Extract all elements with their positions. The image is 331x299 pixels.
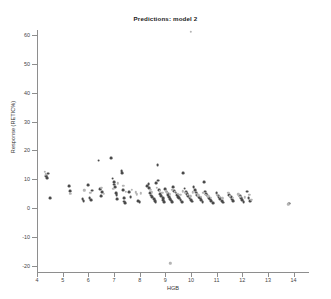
x-axis-tick-label: 9 xyxy=(155,277,175,283)
data-point xyxy=(87,184,90,187)
y-axis-tick-label: -10 xyxy=(8,234,30,240)
y-axis-tick-label: 60 xyxy=(8,32,30,38)
y-axis-tick xyxy=(32,35,37,36)
data-point xyxy=(211,201,214,204)
x-axis-tick-label: 6 xyxy=(78,277,98,283)
data-point xyxy=(97,159,100,162)
y-axis-tick xyxy=(32,150,37,151)
data-point xyxy=(140,192,142,194)
data-point xyxy=(68,185,71,188)
x-axis-tick-label: 10 xyxy=(181,277,201,283)
data-point xyxy=(89,192,91,194)
data-point xyxy=(222,201,225,204)
data-point xyxy=(129,195,132,198)
data-point xyxy=(201,201,204,204)
data-point xyxy=(116,198,119,201)
data-point xyxy=(191,200,194,203)
data-point xyxy=(182,171,185,174)
data-point xyxy=(242,201,245,204)
x-axis-tick-label: 12 xyxy=(232,277,252,283)
data-point xyxy=(121,172,124,175)
data-point xyxy=(128,191,131,194)
data-point xyxy=(89,199,92,202)
data-point xyxy=(110,157,113,160)
data-point xyxy=(202,181,205,184)
data-point xyxy=(246,190,249,193)
y-axis-spine xyxy=(37,30,38,272)
x-axis-tick-label: 14 xyxy=(284,277,304,283)
data-point xyxy=(157,179,160,182)
y-axis-tick xyxy=(32,93,37,94)
data-point xyxy=(115,194,118,197)
x-axis-label: HGB xyxy=(37,285,309,291)
data-point xyxy=(48,197,51,200)
data-point xyxy=(117,182,119,184)
data-point xyxy=(192,186,195,189)
data-point xyxy=(46,172,49,175)
data-point xyxy=(45,177,48,180)
y-axis-tick xyxy=(32,266,37,267)
data-point xyxy=(147,183,150,186)
data-point xyxy=(169,262,171,264)
y-axis-tick xyxy=(32,237,37,238)
data-point xyxy=(100,194,103,197)
scatter-points-layer xyxy=(37,26,309,272)
data-point xyxy=(83,189,85,191)
y-axis-tick xyxy=(32,122,37,123)
data-point xyxy=(123,201,126,204)
data-point xyxy=(163,201,166,204)
data-point xyxy=(122,185,124,187)
data-point xyxy=(183,187,186,190)
data-point xyxy=(69,193,71,195)
x-axis-tick-label: 8 xyxy=(130,277,150,283)
x-axis-tick-label: 11 xyxy=(207,277,227,283)
data-point xyxy=(122,197,125,200)
x-axis-tick-label: 4 xyxy=(27,277,47,283)
data-point xyxy=(103,193,105,195)
data-point xyxy=(111,177,114,180)
y-axis-tick xyxy=(32,179,37,180)
data-point xyxy=(82,199,85,202)
y-axis-tick-label: -20 xyxy=(8,263,30,269)
plot-area xyxy=(37,26,309,272)
chart-title: Predictions: model 2 xyxy=(0,15,331,22)
data-point xyxy=(156,164,159,167)
data-point xyxy=(124,190,126,192)
y-axis-tick xyxy=(32,208,37,209)
chart-figure: Predictions: model 2 -20-100102030405060… xyxy=(0,0,331,299)
y-axis-label: Response (RETIC%) xyxy=(10,62,16,192)
data-point xyxy=(170,201,173,204)
data-point xyxy=(136,193,138,195)
x-axis-tick-label: 5 xyxy=(53,277,73,283)
y-axis-tick xyxy=(32,64,37,65)
data-point xyxy=(244,196,246,198)
data-point xyxy=(190,31,192,33)
data-point xyxy=(232,200,235,203)
y-axis-tick-label: 0 xyxy=(8,205,30,211)
data-point xyxy=(181,201,184,204)
data-point xyxy=(154,201,157,204)
data-point xyxy=(138,201,141,204)
data-point xyxy=(131,189,133,191)
x-axis-tick-label: 13 xyxy=(258,277,278,283)
data-point xyxy=(91,189,94,192)
x-axis-tick-label: 7 xyxy=(104,277,124,283)
